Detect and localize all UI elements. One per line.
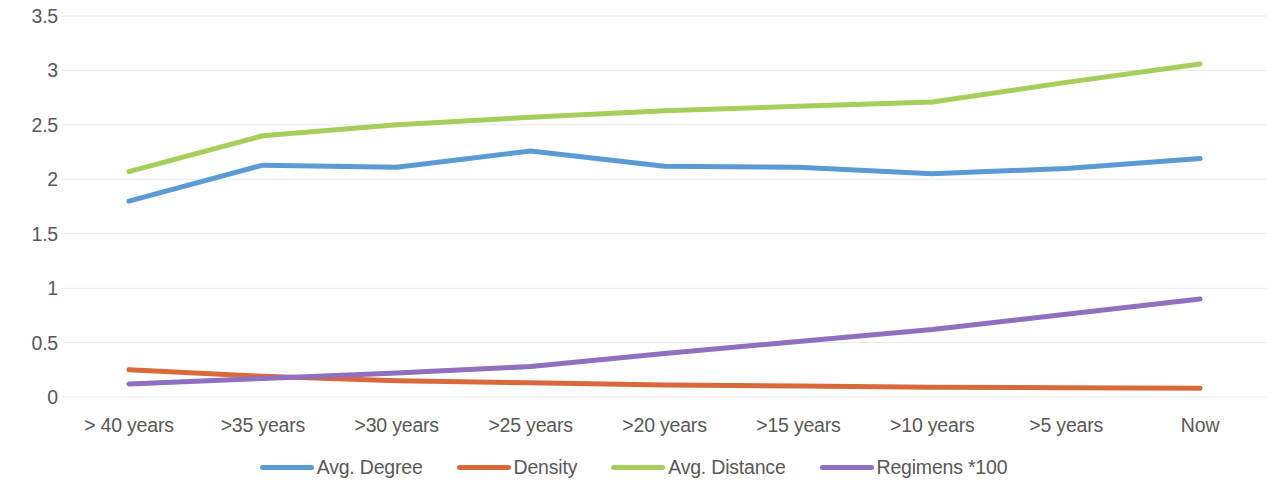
legend-color-swatch	[820, 465, 874, 470]
legend-item[interactable]: Density	[457, 456, 578, 479]
y-axis-tick-label: 0.5	[31, 331, 58, 354]
x-axis: > 40 years>35 years>30 years>25 years>20…	[62, 408, 1267, 442]
x-axis-tick-label: >10 years	[865, 414, 999, 437]
x-axis-tick-label: >35 years	[196, 414, 330, 437]
legend-label: Avg. Degree	[317, 456, 423, 479]
x-axis-tick-label: >15 years	[731, 414, 865, 437]
y-axis-tick-label: 2	[47, 168, 58, 191]
legend-color-swatch	[457, 465, 511, 470]
legend-item[interactable]: Avg. Distance	[611, 456, 785, 479]
chart-legend: Avg. DegreeDensityAvg. DistanceRegimens …	[0, 452, 1267, 482]
x-axis-tick-label: >5 years	[999, 414, 1133, 437]
y-axis-tick-label: 3.5	[31, 5, 58, 28]
x-axis-tick-label: Now	[1133, 414, 1267, 437]
series-line-avg-degree	[129, 151, 1200, 201]
y-axis-tick-label: 2.5	[31, 113, 58, 136]
x-axis-tick-label: >25 years	[464, 414, 598, 437]
series-line-avg-distance	[129, 64, 1200, 172]
legend-label: Regimens *100	[877, 456, 1008, 479]
x-axis-tick-label: > 40 years	[62, 414, 196, 437]
legend-label: Avg. Distance	[668, 456, 785, 479]
legend-color-swatch	[611, 465, 665, 470]
x-axis-tick-label: >30 years	[330, 414, 464, 437]
plot-svg	[62, 0, 1267, 405]
legend-label: Density	[514, 456, 578, 479]
series-line-regimens-100	[129, 299, 1200, 384]
y-axis-tick-label: 1	[47, 277, 58, 300]
line-chart: 00.511.522.533.5 > 40 years>35 years>30 …	[0, 0, 1267, 487]
legend-color-swatch	[260, 465, 314, 470]
y-axis: 00.511.522.533.5	[0, 0, 62, 487]
legend-item[interactable]: Avg. Degree	[260, 456, 423, 479]
y-axis-tick-label: 0	[47, 386, 58, 409]
y-axis-tick-label: 3	[47, 59, 58, 82]
y-axis-tick-label: 1.5	[31, 222, 58, 245]
legend-item[interactable]: Regimens *100	[820, 456, 1008, 479]
x-axis-tick-label: >20 years	[598, 414, 732, 437]
plot-area	[62, 0, 1267, 405]
